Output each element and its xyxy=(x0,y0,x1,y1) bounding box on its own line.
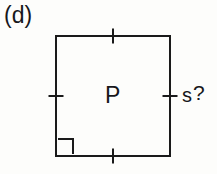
figure-panel: (d) P s? xyxy=(0,0,217,174)
side-length-label: s? xyxy=(182,85,204,105)
side-length-question-mark: ? xyxy=(193,81,205,104)
interior-region-label: P xyxy=(105,84,120,107)
right-angle-marker-icon xyxy=(58,139,73,154)
side-length-variable: s xyxy=(182,84,192,106)
